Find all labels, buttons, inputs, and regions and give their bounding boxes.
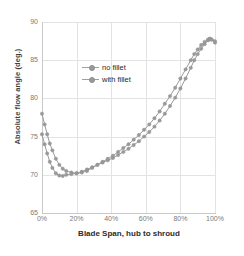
chart-legend: no fillet with fillet [82, 61, 142, 85]
gridline-vertical [111, 22, 112, 213]
legend-item-no-fillet: no fillet [82, 61, 142, 73]
legend-label-no-fillet: no fillet [102, 63, 126, 72]
gridline-horizontal [42, 137, 216, 138]
gridline-vertical [180, 22, 181, 213]
x-axis-title: Blade Span, hub to shroud [42, 229, 216, 238]
gridline-horizontal [42, 175, 216, 176]
y-axis-tick-label: 90 [0, 18, 38, 26]
x-axis-tick-label: 100% [195, 215, 235, 223]
legend-label-with-fillet: with fillet [102, 75, 131, 84]
legend-marker-icon [82, 75, 99, 84]
gridline-horizontal [42, 98, 216, 99]
chart-container: 657075808590 0%20%40%60%80%100% no fille… [0, 0, 244, 256]
gridline-vertical [77, 22, 78, 213]
legend-marker-icon [82, 63, 99, 72]
plot-area [42, 22, 215, 213]
y-axis-line [42, 22, 43, 213]
x-axis-line [42, 213, 216, 214]
y-axis-title: Absolute flow angle (deg.) [13, 27, 22, 167]
legend-item-with-fillet: with fillet [82, 73, 142, 85]
gridline-vertical [215, 22, 216, 213]
y-axis-tick-label: 70 [0, 171, 38, 179]
gridline-horizontal [42, 22, 216, 23]
gridline-vertical [146, 22, 147, 213]
